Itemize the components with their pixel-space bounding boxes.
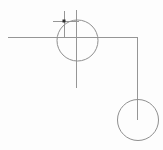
upper-circle [57, 20, 98, 61]
line-drawing-canvas [0, 0, 163, 150]
intersection-dot [63, 20, 66, 23]
lower-right-circle [118, 100, 159, 141]
drawing-area [0, 0, 163, 150]
